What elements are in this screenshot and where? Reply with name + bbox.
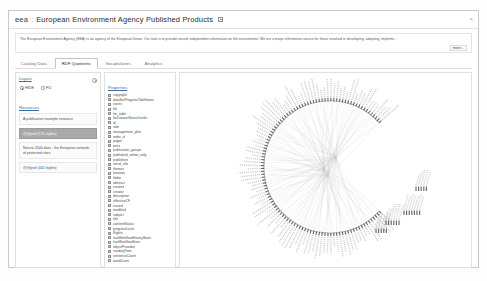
title-separator: : xyxy=(31,15,33,24)
property-label: readingTime xyxy=(113,249,132,253)
checkbox-icon[interactable] xyxy=(108,167,111,170)
checkbox-icon[interactable] xyxy=(108,140,111,143)
list-item[interactable]: @@prof (171 triples) xyxy=(19,128,97,139)
checkbox-icon[interactable] xyxy=(108,176,111,179)
resource-name: A publication example resource xyxy=(23,117,93,122)
property-label: for_table xyxy=(113,112,126,116)
tab-bar: Catalog Data RDF Quotients Vocabularies … xyxy=(15,57,472,69)
screenshot-root: eea : European Environment Agency Publis… xyxy=(0,0,487,281)
checkbox-icon[interactable] xyxy=(108,218,111,221)
checkbox-icon[interactable] xyxy=(108,186,111,189)
content-area: Layout HIDE FD Resources A publication xyxy=(15,72,472,268)
list-item[interactable]: A publication example resource xyxy=(19,113,97,125)
checkbox-icon[interactable] xyxy=(108,255,111,258)
layout-option-fd[interactable]: FD xyxy=(41,86,51,90)
property-label: order_id xyxy=(113,135,125,139)
checkbox-icon[interactable] xyxy=(108,227,111,230)
checkbox-icon[interactable] xyxy=(108,250,111,253)
checkbox-icon[interactable] xyxy=(108,236,111,239)
property-label: forDatasetSearchLinks xyxy=(113,116,147,120)
resource-meta: @@prof (171 triples) xyxy=(23,132,93,136)
description-panel: The European Environment Agency (EEA) is… xyxy=(15,33,472,53)
sidebar-panel: Layout HIDE FD Resources A publication xyxy=(15,72,101,268)
checkbox-icon[interactable] xyxy=(108,190,111,193)
property-label: modified xyxy=(113,208,126,212)
property-label: hasWorkflowHistoryState xyxy=(113,236,151,240)
checkbox-icon[interactable] xyxy=(108,154,111,157)
checkbox-icon[interactable] xyxy=(108,117,111,120)
list-item[interactable]: @@prof (441 triples) xyxy=(19,162,97,173)
checkbox-icon[interactable] xyxy=(108,98,111,101)
list-item[interactable]: Natura 2000 data - the European network … xyxy=(19,142,97,159)
layout-options: HIDE FD xyxy=(20,86,97,90)
property-label: isbn xyxy=(113,125,119,129)
layout-section-title: Layout xyxy=(19,76,32,81)
radio-hide-icon[interactable] xyxy=(20,86,24,90)
checkbox-icon[interactable] xyxy=(108,209,111,212)
rdf-quotient-graph[interactable] xyxy=(179,72,472,268)
checkbox-icon[interactable] xyxy=(108,232,111,235)
checkbox-icon[interactable] xyxy=(108,131,111,134)
property-label: wordCount xyxy=(113,259,129,263)
checkbox-icon[interactable] xyxy=(108,204,111,207)
tab-analytics[interactable]: Analytics xyxy=(139,59,169,68)
tab-rdf-quotients[interactable]: RDF Quotients xyxy=(55,58,98,69)
checkbox-icon[interactable] xyxy=(108,158,111,161)
property-label: effectiveCF xyxy=(113,199,130,203)
property-row[interactable]: wordCount xyxy=(108,258,172,263)
checkbox-icon[interactable] xyxy=(108,213,111,216)
property-label: title xyxy=(113,217,118,221)
checkbox-icon[interactable] xyxy=(108,259,111,262)
layout-option-fd-label: FD xyxy=(46,86,51,90)
close-icon[interactable]: × xyxy=(469,15,473,23)
property-label: description xyxy=(113,194,129,198)
checkbox-icon[interactable] xyxy=(108,222,111,225)
property-label: progressLevel xyxy=(113,227,134,231)
checkbox-icon[interactable] xyxy=(108,144,111,147)
checkbox-icon[interactable] xyxy=(108,94,111,97)
property-label: subject xyxy=(113,213,124,217)
properties-panel: Properties copyrightdataSetProgressTabVi… xyxy=(104,72,176,268)
checkbox-icon[interactable] xyxy=(108,121,111,124)
property-label: file xyxy=(113,107,117,111)
checkbox-icon[interactable] xyxy=(108,199,111,202)
checkbox-icon[interactable] xyxy=(108,163,111,166)
layout-option-hide[interactable]: HIDE xyxy=(20,86,34,90)
checkbox-icon[interactable] xyxy=(108,195,111,198)
properties-list: copyrightdataSetProgressTabViewerexistsf… xyxy=(108,93,172,263)
property-label: hasWorkflowState xyxy=(113,240,140,244)
property-label: folder xyxy=(113,176,121,180)
radial-graph-svg[interactable] xyxy=(180,73,469,265)
property-label: publishers xyxy=(113,158,128,162)
property-label: abstract xyxy=(113,181,125,185)
checkbox-icon[interactable] xyxy=(108,172,111,175)
tab-vocabularies[interactable]: Vocabularies xyxy=(100,59,137,68)
checkbox-icon[interactable] xyxy=(108,135,111,138)
resource-meta: @@prof (441 triples) xyxy=(23,166,93,170)
property-label: objectProvides xyxy=(113,245,135,249)
gear-icon[interactable] xyxy=(92,78,97,83)
property-label: publication_groups xyxy=(113,148,141,152)
checkbox-icon[interactable] xyxy=(108,108,111,111)
checkbox-icon[interactable] xyxy=(108,181,111,184)
resource-name: Natura 2000 data - the European network … xyxy=(23,146,93,156)
checkbox-icon[interactable] xyxy=(108,103,111,106)
description-text: The European Environment Agency (EEA) is… xyxy=(20,37,467,42)
radio-fd-icon[interactable] xyxy=(41,86,45,90)
checkbox-icon[interactable] xyxy=(108,149,111,152)
property-label: Rights xyxy=(113,231,123,235)
property-label: id xyxy=(113,121,116,125)
checkbox-icon[interactable] xyxy=(108,126,111,129)
property-label: location xyxy=(113,171,125,175)
property-label: exists xyxy=(113,102,122,106)
checkbox-icon[interactable] xyxy=(108,245,111,248)
property-label: management_plan xyxy=(113,130,141,134)
catalog-window: eea : European Environment Agency Publis… xyxy=(8,10,479,268)
checkbox-icon[interactable] xyxy=(108,241,111,244)
tab-catalog-data[interactable]: Catalog Data xyxy=(15,59,53,68)
page-title: European Environment Agency Published Pr… xyxy=(36,15,213,24)
checkbox-icon[interactable] xyxy=(108,112,111,115)
more-link[interactable]: more... xyxy=(450,45,467,51)
window-restore-icon[interactable] xyxy=(218,17,223,22)
properties-title: Properties xyxy=(108,85,127,90)
